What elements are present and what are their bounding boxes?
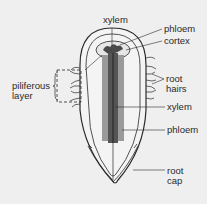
- phloem-band-left: [102, 55, 108, 141]
- label-phloem-mid: phloem: [167, 125, 198, 135]
- label-xylem-top: xylem: [103, 15, 128, 25]
- phloem-band-right: [118, 55, 124, 141]
- label-xylem-mid: xylem: [167, 102, 192, 112]
- root-diagram: xylem phloem cortex root hairs piliferou…: [0, 0, 207, 204]
- label-phloem-top: phloem: [164, 24, 195, 34]
- label-cortex: cortex: [164, 36, 190, 46]
- label-piliferous-2: layer: [12, 91, 33, 101]
- leader-root-hairs: [152, 74, 164, 84]
- root-hairs-left: [70, 67, 80, 107]
- root-hairs-right: [146, 57, 156, 99]
- label-root-hairs-2: hairs: [166, 84, 187, 94]
- label-root-cap-2: cap: [167, 176, 182, 186]
